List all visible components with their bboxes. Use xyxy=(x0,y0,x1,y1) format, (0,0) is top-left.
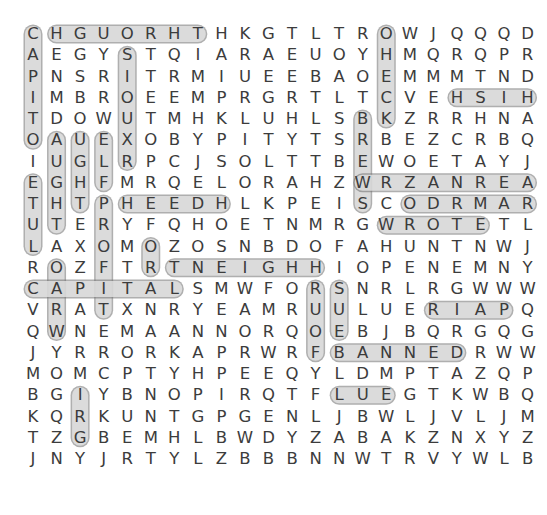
grid-cell[interactable]: O xyxy=(116,342,138,364)
grid-cell[interactable]: M xyxy=(22,363,44,385)
grid-cell[interactable]: Z xyxy=(69,257,91,279)
grid-cell[interactable]: F xyxy=(258,278,280,300)
grid-cell[interactable]: B xyxy=(399,321,421,343)
grid-cell[interactable]: W xyxy=(517,342,539,364)
grid-cell[interactable]: N xyxy=(328,448,350,470)
grid-cell[interactable]: L xyxy=(352,299,374,321)
grid-cell[interactable]: K xyxy=(375,108,397,130)
grid-cell[interactable]: R xyxy=(116,151,138,173)
grid-cell[interactable]: N xyxy=(210,321,232,343)
grid-cell[interactable]: V xyxy=(399,87,421,109)
grid-cell[interactable]: P xyxy=(517,363,539,385)
grid-cell[interactable]: O xyxy=(375,23,397,45)
grid-cell[interactable]: W xyxy=(493,278,515,300)
grid-cell[interactable]: T xyxy=(116,257,138,279)
grid-cell[interactable]: Q xyxy=(517,384,539,406)
grid-cell[interactable]: L xyxy=(493,448,515,470)
grid-cell[interactable]: T xyxy=(22,193,44,215)
grid-cell[interactable]: E xyxy=(422,151,444,173)
grid-cell[interactable]: J xyxy=(328,406,350,428)
grid-cell[interactable]: P xyxy=(281,193,303,215)
grid-cell[interactable]: D xyxy=(352,363,374,385)
grid-cell[interactable]: T xyxy=(22,427,44,449)
grid-cell[interactable]: A xyxy=(328,427,350,449)
grid-cell[interactable]: N xyxy=(422,257,444,279)
grid-cell[interactable]: H xyxy=(187,214,209,236)
grid-cell[interactable]: P xyxy=(375,257,397,279)
grid-cell[interactable]: A xyxy=(46,278,68,300)
grid-cell[interactable]: L xyxy=(469,406,491,428)
grid-cell[interactable]: Z xyxy=(210,448,232,470)
grid-cell[interactable]: I xyxy=(446,299,468,321)
grid-cell[interactable]: B xyxy=(328,342,350,364)
grid-cell[interactable]: R xyxy=(93,87,115,109)
grid-cell[interactable]: L xyxy=(258,151,280,173)
grid-cell[interactable]: Y xyxy=(163,363,185,385)
grid-cell[interactable]: M xyxy=(399,66,421,88)
grid-cell[interactable]: M xyxy=(69,363,91,385)
grid-cell[interactable]: I xyxy=(69,384,91,406)
grid-cell[interactable]: W xyxy=(493,236,515,258)
grid-cell[interactable]: E xyxy=(281,44,303,66)
grid-cell[interactable]: W xyxy=(352,172,374,194)
grid-cell[interactable]: B xyxy=(305,66,327,88)
grid-cell[interactable]: A xyxy=(517,172,539,194)
grid-cell[interactable]: T xyxy=(352,87,374,109)
grid-cell[interactable]: H xyxy=(375,44,397,66)
grid-cell[interactable]: B xyxy=(258,236,280,258)
grid-cell[interactable]: Q xyxy=(446,23,468,45)
grid-cell[interactable]: E xyxy=(258,406,280,428)
grid-cell[interactable]: T xyxy=(140,363,162,385)
grid-cell[interactable]: B xyxy=(281,448,303,470)
grid-cell[interactable]: R xyxy=(399,214,421,236)
grid-cell[interactable]: H xyxy=(305,257,327,279)
grid-cell[interactable]: E xyxy=(93,321,115,343)
grid-cell[interactable]: W xyxy=(46,321,68,343)
grid-cell[interactable]: W xyxy=(93,108,115,130)
grid-cell[interactable]: T xyxy=(446,236,468,258)
grid-cell[interactable]: O xyxy=(422,214,444,236)
grid-cell[interactable]: T xyxy=(69,193,91,215)
grid-cell[interactable]: Z xyxy=(399,108,421,130)
grid-cell[interactable]: O xyxy=(305,236,327,258)
grid-cell[interactable]: N xyxy=(69,321,91,343)
grid-cell[interactable]: L xyxy=(305,406,327,428)
grid-cell[interactable]: X xyxy=(69,236,91,258)
grid-cell[interactable]: O xyxy=(210,214,232,236)
grid-cell[interactable]: O xyxy=(305,321,327,343)
grid-cell[interactable]: I xyxy=(210,384,232,406)
grid-cell[interactable]: O xyxy=(140,129,162,151)
grid-cell[interactable]: G xyxy=(258,87,280,109)
grid-cell[interactable]: O xyxy=(46,257,68,279)
grid-cell[interactable]: N xyxy=(493,257,515,279)
grid-cell[interactable]: W xyxy=(258,342,280,364)
grid-cell[interactable]: H xyxy=(69,172,91,194)
grid-cell[interactable]: R xyxy=(469,342,491,364)
grid-cell[interactable]: I xyxy=(116,66,138,88)
grid-cell[interactable]: A xyxy=(281,172,303,194)
grid-cell[interactable]: A xyxy=(375,427,397,449)
grid-cell[interactable]: H xyxy=(210,193,232,215)
grid-cell[interactable]: Q xyxy=(422,44,444,66)
grid-cell[interactable]: P xyxy=(140,151,162,173)
grid-cell[interactable]: C xyxy=(93,363,115,385)
grid-cell[interactable]: H xyxy=(116,193,138,215)
grid-cell[interactable]: E xyxy=(140,87,162,109)
grid-cell[interactable]: R xyxy=(69,342,91,364)
grid-cell[interactable]: I xyxy=(22,151,44,173)
grid-cell[interactable]: H xyxy=(187,108,209,130)
grid-cell[interactable]: E xyxy=(305,193,327,215)
grid-cell[interactable]: C xyxy=(446,129,468,151)
grid-cell[interactable]: L xyxy=(234,108,256,130)
grid-cell[interactable]: J xyxy=(493,406,515,428)
grid-cell[interactable]: S xyxy=(469,87,491,109)
grid-cell[interactable]: Q xyxy=(517,129,539,151)
grid-cell[interactable]: P xyxy=(210,363,232,385)
grid-cell[interactable]: A xyxy=(46,236,68,258)
grid-cell[interactable]: P xyxy=(493,44,515,66)
grid-cell[interactable]: Y xyxy=(352,44,374,66)
grid-cell[interactable]: G xyxy=(69,44,91,66)
grid-cell[interactable]: J xyxy=(422,23,444,45)
grid-cell[interactable]: T xyxy=(258,129,280,151)
grid-cell[interactable]: F xyxy=(93,172,115,194)
